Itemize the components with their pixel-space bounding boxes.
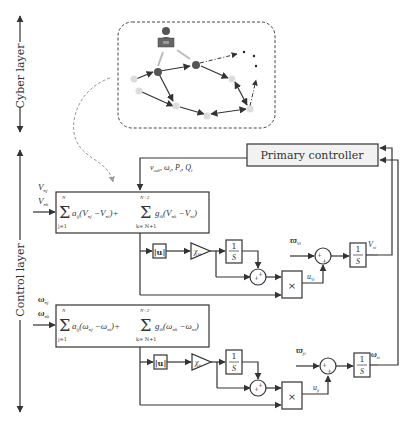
input-V-nk: Vnk (38, 196, 49, 207)
svg-text:+: + (327, 367, 332, 374)
svg-text:×: × (288, 391, 296, 402)
node-light (204, 113, 211, 120)
svg-text:|u|: |u| (154, 247, 166, 257)
operator-computer-icon (158, 27, 174, 47)
voltage-feedback-line (378, 148, 392, 255)
node-light (173, 103, 180, 110)
node-dark (192, 61, 200, 69)
svg-text:ωni: ωni (371, 350, 380, 360)
svg-text:Σ: Σ (59, 316, 70, 335)
svg-text:Σ: Σ (59, 203, 70, 222)
svg-text:ufi: ufi (313, 383, 319, 393)
svg-text:k= N+1: k= N+1 (136, 336, 157, 342)
frequency-feedback-line (378, 160, 398, 365)
svg-text:1: 1 (231, 352, 236, 361)
svg-text:N+2: N+2 (139, 195, 150, 200)
primary-controller-label: Primary controller (260, 149, 364, 162)
svg-text:+: + (322, 257, 327, 264)
svg-text:×: × (288, 280, 296, 291)
svg-text:j=1: j=1 (57, 336, 67, 343)
node-dark (154, 68, 162, 76)
primary-controller-block: Primary controller (247, 144, 378, 166)
svg-text:ϖVi: ϖVi (290, 235, 301, 246)
svg-text:uVi: uVi (307, 272, 314, 282)
svg-text:|u|: |u| (155, 358, 167, 368)
control-layer-axis: Control layer (14, 150, 27, 412)
node-light (229, 76, 236, 83)
svg-text:N: N (61, 308, 66, 313)
cyber-layer-label: Cyber layer (14, 43, 27, 109)
svg-text:S: S (232, 253, 236, 262)
svg-text:j=1: j=1 (57, 223, 67, 230)
cyber-physical-control-diagram: Cyber layer Control layer (0, 0, 405, 425)
voltage-loop: Vnj Vnk Σ N j=1 aij(Vnj −Vni)+ Σ N+2 k= … (33, 182, 378, 298)
svg-text:S: S (360, 367, 364, 376)
svg-text:aij(ωnj −ωni)+: aij(ωnj −ωni)+ (72, 321, 120, 332)
input-V-nj: Vnj (38, 182, 48, 193)
node-light (136, 88, 143, 95)
svg-text:N+2: N+2 (139, 308, 150, 313)
node-light (131, 76, 138, 83)
cyber-to-control-link (74, 78, 113, 182)
cyber-layer-axis: Cyber layer (14, 16, 27, 132)
svg-text:+: + (258, 381, 263, 388)
svg-text:1: 1 (359, 355, 364, 364)
frequency-loop: ωnj ωnk Σ N j=1 aij(ωnj −ωni)+ Σ N+2 k= … (33, 294, 380, 409)
svg-text:Σ: Σ (140, 316, 151, 335)
svg-text:k= N+1: k= N+1 (136, 223, 157, 229)
control-layer-label: Control layer (14, 243, 27, 317)
cyber-network (118, 22, 275, 128)
input-w-nk: ωnk (38, 308, 50, 319)
node-light (247, 106, 254, 113)
svg-text:1: 1 (231, 242, 236, 251)
input-w-nj: ωnj (38, 294, 49, 305)
svg-text:S: S (232, 364, 236, 373)
svg-text:Σ: Σ (140, 203, 151, 222)
primary-controller-outputs: vodi, ωi, Pi, Qi (150, 163, 193, 173)
svg-text:1: 1 (355, 245, 360, 254)
svg-text:+: + (258, 270, 263, 277)
svg-text:S: S (356, 257, 360, 266)
svg-text:Vni: Vni (368, 240, 376, 250)
svg-text:aij(Vnj −Vni)+: aij(Vnj −Vni)+ (72, 208, 118, 219)
svg-text:ϖfi: ϖfi (296, 345, 306, 356)
svg-text:N: N (61, 195, 66, 200)
